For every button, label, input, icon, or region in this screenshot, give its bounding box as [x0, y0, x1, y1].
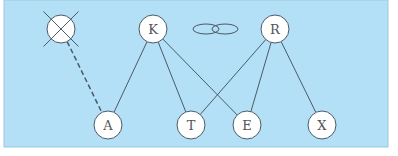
node-label-a: A — [102, 118, 113, 133]
node-r: R — [261, 15, 289, 43]
node-x: X — [308, 111, 336, 139]
node-label-t: T — [187, 118, 196, 133]
node-label-k: K — [148, 22, 158, 37]
node-label-r: R — [270, 22, 281, 37]
node-k: K — [139, 15, 167, 43]
node-crossed — [44, 12, 79, 47]
node-a: A — [94, 111, 122, 139]
node-e: E — [233, 111, 261, 139]
diagram-canvas: KRATEX — [0, 0, 398, 156]
node-t: T — [177, 111, 205, 139]
node-label-x: X — [317, 118, 327, 133]
node-label-e: E — [242, 118, 252, 133]
